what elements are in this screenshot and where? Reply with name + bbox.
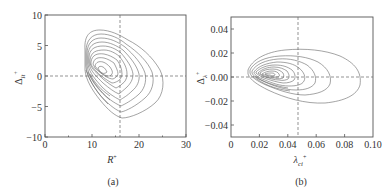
xlabel-a: R+ (106, 154, 117, 165)
svg-text:−0.02: −0.02 (205, 96, 228, 107)
svg-text:0: 0 (37, 71, 42, 82)
svg-text:0.10: 0.10 (364, 139, 382, 150)
ylabel-b: Δλ+ (195, 71, 209, 84)
ticks-b (231, 29, 345, 137)
svg-text:0.04: 0.04 (211, 24, 229, 35)
caption-b: (b) (295, 176, 307, 188)
svg-text:0: 0 (229, 139, 234, 150)
svg-text:0.02: 0.02 (251, 139, 269, 150)
svg-text:5: 5 (37, 41, 42, 52)
svg-text:10: 10 (32, 10, 42, 21)
xtick-labels-b: 0 0.02 0.04 0.06 0.08 0.10 (229, 139, 382, 150)
svg-text:0.06: 0.06 (307, 139, 325, 150)
svg-text:10: 10 (87, 139, 97, 150)
caption-a: (a) (107, 176, 118, 188)
svg-text:−10: −10 (26, 132, 42, 143)
svg-text:0: 0 (43, 139, 48, 150)
svg-text:0.08: 0.08 (336, 139, 354, 150)
svg-text:−0.04: −0.04 (205, 120, 228, 131)
figure: 0 10 20 30 10 5 0 −5 −10 R+ Δlt+ (a) (0, 0, 392, 196)
ylabel-a: Δlt+ (13, 71, 27, 85)
xtick-labels-a: 0 10 20 30 (43, 139, 192, 150)
svg-text:20: 20 (134, 139, 144, 150)
contours-a (85, 30, 163, 118)
panel-b: 0 0.02 0.04 0.06 0.08 0.10 0.04 0.02 0.0… (195, 17, 382, 188)
svg-text:0.04: 0.04 (279, 139, 297, 150)
svg-text:0.02: 0.02 (211, 48, 229, 59)
ytick-labels-a: 10 5 0 −5 −10 (26, 10, 42, 143)
xlabel-b: λci+ (293, 154, 307, 168)
svg-text:−5: −5 (31, 102, 42, 113)
svg-text:30: 30 (181, 139, 191, 150)
contours-b (248, 49, 360, 103)
svg-text:0.00: 0.00 (211, 72, 229, 83)
panel-a: 0 10 20 30 10 5 0 −5 −10 R+ Δlt+ (a) (13, 10, 191, 188)
